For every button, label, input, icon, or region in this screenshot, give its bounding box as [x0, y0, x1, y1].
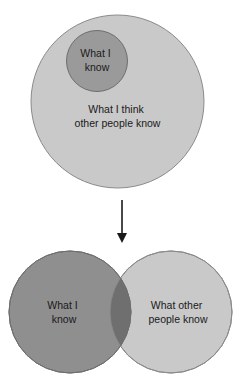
nested-circles-panel: What I know What I think other people kn… [31, 15, 204, 188]
venn-diagram-panel: What I know What other people know [9, 251, 232, 373]
knowledge-venn-diagram: What I know What I think other people kn… [0, 0, 243, 389]
diagram-canvas: What I know What I think other people kn… [0, 0, 243, 389]
